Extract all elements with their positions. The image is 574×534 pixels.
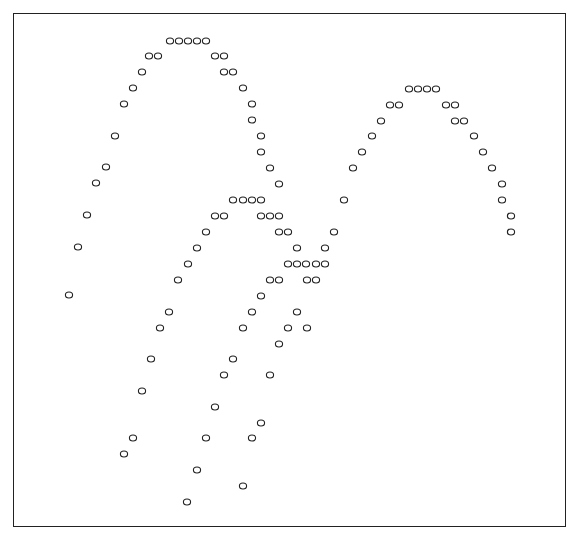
data-point-marker [211, 404, 218, 410]
data-point-marker [451, 118, 458, 124]
data-point-marker [74, 244, 81, 250]
data-point-marker [442, 102, 449, 108]
data-point-marker [312, 261, 319, 267]
data-point-marker [202, 435, 209, 441]
data-point-marker [202, 229, 209, 235]
data-point-marker [248, 309, 255, 315]
data-point-marker [138, 388, 145, 394]
data-point-marker [229, 197, 236, 203]
data-point-marker [220, 69, 227, 75]
data-point-marker [120, 451, 127, 457]
data-point-marker [275, 181, 282, 187]
data-point-marker [184, 38, 191, 44]
data-point-marker [156, 325, 163, 331]
data-point-marker [321, 245, 328, 251]
data-point-marker [303, 277, 310, 283]
data-point-marker [358, 149, 365, 155]
data-point-marker [479, 149, 486, 155]
data-point-marker [92, 180, 99, 186]
data-point-marker [257, 133, 264, 139]
data-point-marker [174, 277, 181, 283]
data-point-marker [330, 229, 337, 235]
data-point-marker [284, 261, 291, 267]
data-point-marker [386, 102, 393, 108]
data-point-marker [432, 86, 439, 92]
data-point-marker [248, 117, 255, 123]
data-point-marker [202, 38, 209, 44]
data-point-marker [395, 102, 402, 108]
data-point-marker [405, 86, 412, 92]
data-point-marker [184, 261, 191, 267]
data-point-marker [349, 165, 356, 171]
data-point-marker [220, 53, 227, 59]
data-point-marker [229, 356, 236, 362]
data-point-marker [220, 213, 227, 219]
data-point-marker [284, 325, 291, 331]
data-point-marker [293, 245, 300, 251]
data-point-marker [211, 53, 218, 59]
data-point-marker [266, 277, 273, 283]
data-point-marker [83, 212, 90, 218]
data-point-marker [460, 118, 467, 124]
data-point-marker [293, 309, 300, 315]
data-point-marker [239, 483, 246, 489]
data-point-marker [302, 261, 309, 267]
data-point-marker [257, 149, 264, 155]
data-point-marker [129, 85, 136, 91]
data-point-marker [193, 38, 200, 44]
data-point-marker [211, 213, 218, 219]
data-point-marker [248, 435, 255, 441]
data-point-marker [138, 69, 145, 75]
data-point-marker [154, 53, 161, 59]
data-point-marker [321, 261, 328, 267]
data-point-marker [507, 229, 514, 235]
data-point-marker [498, 181, 505, 187]
scatter-plot [0, 0, 574, 534]
data-point-marker [266, 372, 273, 378]
data-point-marker [507, 213, 514, 219]
data-point-marker [239, 325, 246, 331]
data-point-marker [266, 213, 273, 219]
data-point-marker [145, 53, 152, 59]
data-point-marker [165, 309, 172, 315]
data-point-marker [129, 435, 136, 441]
data-point-marker [266, 165, 273, 171]
data-point-marker [368, 133, 375, 139]
data-point-marker [303, 325, 310, 331]
data-point-marker [293, 261, 300, 267]
data-point-marker [377, 118, 384, 124]
data-point-marker [166, 38, 173, 44]
data-point-marker [414, 86, 421, 92]
data-point-marker [193, 245, 200, 251]
data-point-marker [248, 197, 255, 203]
data-point-marker [193, 467, 200, 473]
data-point-marker [239, 85, 246, 91]
data-point-marker [248, 101, 255, 107]
data-point-marker [111, 133, 118, 139]
data-point-marker [451, 102, 458, 108]
data-point-marker [488, 165, 495, 171]
data-point-marker [275, 229, 282, 235]
data-point-marker [229, 69, 236, 75]
data-points [65, 38, 514, 505]
data-point-marker [284, 229, 291, 235]
data-point-marker [340, 197, 347, 203]
data-point-marker [275, 213, 282, 219]
data-point-marker [312, 277, 319, 283]
data-point-marker [257, 213, 264, 219]
data-point-marker [257, 197, 264, 203]
data-point-marker [239, 197, 246, 203]
data-point-marker [257, 293, 264, 299]
data-point-marker [147, 356, 154, 362]
data-point-marker [257, 420, 264, 426]
data-point-marker [65, 292, 72, 298]
data-point-marker [183, 499, 190, 505]
data-point-marker [423, 86, 430, 92]
data-point-marker [102, 164, 109, 170]
data-point-marker [120, 101, 127, 107]
data-point-marker [275, 341, 282, 347]
data-point-marker [470, 133, 477, 139]
data-point-marker [275, 277, 282, 283]
data-point-marker [220, 372, 227, 378]
data-point-marker [175, 38, 182, 44]
